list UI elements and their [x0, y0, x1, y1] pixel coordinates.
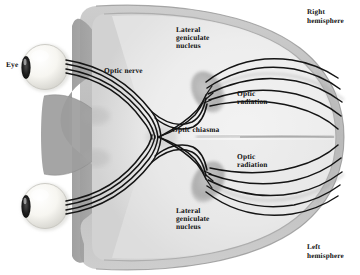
label-lgn-top-line3: nucleus [176, 42, 201, 51]
label-left-hemisphere-line1: Left [307, 243, 320, 251]
label-right-hemisphere-line2: hemisphere [307, 17, 344, 25]
label-lgn-bottom-line3: nucleus [176, 223, 201, 232]
eye-left [21, 183, 71, 231]
label-right-hemisphere-line1: Right [307, 8, 325, 16]
label-eye: Eye [6, 61, 18, 70]
eye-right [21, 44, 71, 92]
label-left-hemisphere-line2: hemisphere [307, 252, 344, 260]
label-optic-nerve: Optic nerve [104, 67, 143, 76]
longitudinal-fissure [196, 136, 334, 137]
label-optic-radiation-top-line2: radiation [237, 98, 268, 107]
label-optic-chiasma: Optic chiasma [172, 126, 219, 135]
visual-pathway-figure: Eye Optic nerve Lateral geniculate nucle… [0, 0, 360, 275]
label-optic-radiation-bottom-line2: radiation [237, 161, 268, 170]
